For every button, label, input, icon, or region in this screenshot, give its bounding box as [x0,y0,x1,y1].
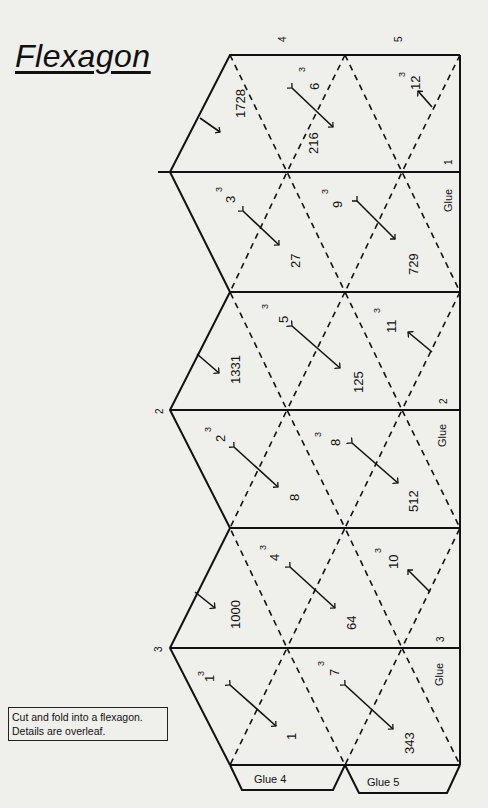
edge-label-3: 3 [153,646,164,652]
face-10-base: 10 [386,555,401,569]
face-8b-exp: 3 [313,432,323,437]
face-3-base: 3 [223,196,238,203]
glue-label-3: 3 [435,636,446,642]
arrow-5-125 [292,326,340,368]
arrow-3-27 [243,211,279,245]
glue-tab-4 [230,765,345,790]
face-6-exp: 3 [297,67,307,72]
face-9-exp: 3 [320,189,330,194]
arrow-10 [408,570,430,592]
face-1728: 1728 [233,89,248,118]
arrow-6-216 [292,88,333,127]
face-10-exp: 3 [373,548,383,553]
arrow-9-729 [357,201,395,239]
arrow-4-64 [290,567,335,608]
face-8b-base: 8 [328,439,343,446]
arrow-1728 [200,118,220,132]
arrow-1331 [197,354,219,373]
face-1: 1 [284,733,299,740]
face-11-base: 11 [384,320,399,334]
face-2-base: 2 [213,435,228,442]
glue-label-1: 1 [443,159,454,165]
face-11-exp: 3 [372,308,382,313]
face-1331: 1331 [228,355,243,384]
face-7-exp: 3 [316,661,326,666]
face-2-exp: 3 [203,427,213,432]
arrow-7-343 [345,685,393,729]
face-512: 512 [406,490,421,512]
face-5-base: 5 [276,316,291,323]
face-216: 216 [306,132,321,154]
arrow-1000 [195,592,215,608]
edge-label-5: 5 [393,36,404,42]
face-7-base: 7 [327,669,342,676]
face-1000: 1000 [228,600,243,629]
face-3-exp: 3 [214,187,224,192]
face-343: 343 [402,732,417,754]
glue-tab-5-label: Glue 5 [367,776,399,788]
glue-side-2: Glue [436,424,448,447]
face-4-exp: 3 [258,545,268,550]
flexagon-net: 4 5 2 3 1 2 3 Glue Glue Glue Glue 4 Glue… [0,0,488,808]
face-125: 125 [351,371,366,393]
glue-side-3: Glue [433,663,445,686]
face-64: 64 [344,616,359,630]
face-12-exp: 3 [397,72,407,77]
face-8: 8 [287,494,302,501]
arrow-12 [418,91,432,107]
edge-label-2: 2 [154,408,165,414]
face-4-base: 4 [267,554,282,561]
arrow-8-512 [352,443,398,483]
arrow-11 [408,332,432,352]
face-6-base: 6 [307,83,322,90]
glue-tab-5 [345,765,460,793]
glue-label-2: 2 [438,398,449,404]
edge-label-4: 4 [277,36,288,42]
face-1-exp: 3 [196,671,206,676]
glue-side-1: Glue [442,189,454,212]
arrow-1-1 [230,685,276,726]
face-12-base: 12 [408,76,423,90]
glue-tab-4-label: Glue 4 [254,773,286,785]
face-9-base: 9 [330,201,345,208]
face-729: 729 [406,253,421,275]
face-5-exp: 3 [260,304,270,309]
face-values: 1728 216 27 729 1331 125 8 512 1000 64 1… [228,89,421,754]
arrow-2-8 [234,447,278,487]
face-27: 27 [288,254,303,268]
